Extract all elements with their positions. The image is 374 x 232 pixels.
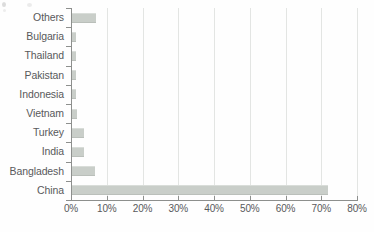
bar-china xyxy=(72,185,328,195)
category-label-turkey: Turkey xyxy=(0,123,64,142)
x-tick-label-20: 20% xyxy=(123,203,163,214)
category-label-bangladesh: Bangladesh xyxy=(0,162,64,181)
bar-pakistan xyxy=(72,70,76,80)
x-tick xyxy=(107,196,108,201)
x-tick xyxy=(143,196,144,201)
y-tick xyxy=(66,27,71,28)
x-tick-label-70: 70% xyxy=(301,203,341,214)
y-tick xyxy=(66,181,71,182)
x-tick xyxy=(321,196,322,201)
category-label-bulgaria: Bulgaria xyxy=(0,27,64,46)
x-tick-label-0: 0% xyxy=(51,203,91,214)
y-tick xyxy=(66,8,71,9)
y-tick xyxy=(66,123,71,124)
scan-artifact xyxy=(27,3,32,7)
category-label-india: India xyxy=(0,142,64,161)
x-tick-label-60: 60% xyxy=(266,203,306,214)
x-tick xyxy=(214,196,215,201)
bar-bangladesh xyxy=(72,166,95,176)
bar-row: China xyxy=(0,181,374,200)
bar-row: Indonesia xyxy=(0,85,374,104)
x-tick-label-50: 50% xyxy=(230,203,270,214)
category-label-indonesia: Indonesia xyxy=(0,85,64,104)
category-label-vietnam: Vietnam xyxy=(0,104,64,123)
bar-bulgaria xyxy=(72,32,76,42)
bar-chart: OthersBulgariaThailandPakistanIndonesiaV… xyxy=(0,0,374,232)
y-tick xyxy=(66,85,71,86)
y-tick xyxy=(66,162,71,163)
bar-vietnam xyxy=(72,109,77,119)
bar-row: Bulgaria xyxy=(0,27,374,46)
bar-row: India xyxy=(0,142,374,161)
y-tick xyxy=(66,66,71,67)
bar-row: Others xyxy=(0,8,374,27)
x-tick xyxy=(357,196,358,201)
x-tick-label-30: 30% xyxy=(158,203,198,214)
category-label-pakistan: Pakistan xyxy=(0,66,64,85)
x-tick xyxy=(178,196,179,201)
x-tick-label-40: 40% xyxy=(194,203,234,214)
x-tick xyxy=(286,196,287,201)
category-label-china: China xyxy=(0,181,64,200)
category-label-others: Others xyxy=(0,8,64,27)
y-tick xyxy=(66,46,71,47)
y-tick xyxy=(66,142,71,143)
bar-row: Vietnam xyxy=(0,104,374,123)
bar-row: Bangladesh xyxy=(0,162,374,181)
category-label-thailand: Thailand xyxy=(0,46,64,65)
bar-turkey xyxy=(72,128,84,138)
bar-india xyxy=(72,147,84,157)
x-tick xyxy=(250,196,251,201)
y-tick xyxy=(66,104,71,105)
bar-row: Pakistan xyxy=(0,66,374,85)
scan-artifact xyxy=(2,2,6,7)
bar-others xyxy=(72,13,96,23)
x-tick xyxy=(71,196,72,201)
bar-row: Thailand xyxy=(0,46,374,65)
x-tick-label-80: 80% xyxy=(337,203,374,214)
bar-thailand xyxy=(72,51,76,61)
bar-indonesia xyxy=(72,89,76,99)
bar-row: Turkey xyxy=(0,123,374,142)
x-tick-label-10: 10% xyxy=(87,203,127,214)
